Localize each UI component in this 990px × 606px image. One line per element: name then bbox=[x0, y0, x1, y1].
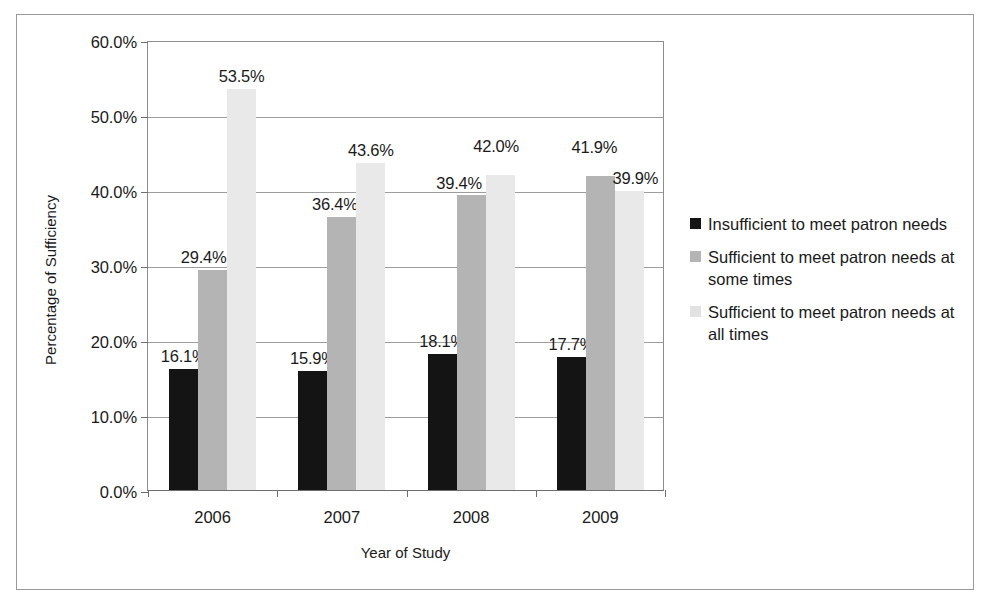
legend-swatch-light-icon bbox=[690, 306, 701, 317]
bar-2008-series-1[interactable] bbox=[457, 195, 486, 491]
bar-value-label: 39.9% bbox=[612, 169, 658, 188]
y-axis-tick bbox=[141, 42, 148, 43]
bar-2006-series-0[interactable] bbox=[169, 369, 198, 490]
y-axis-tick bbox=[141, 342, 148, 343]
bar-2009-series-2[interactable] bbox=[615, 191, 644, 490]
legend-swatch-black-icon bbox=[690, 218, 701, 229]
y-axis-tick bbox=[141, 417, 148, 418]
plot-area: 0.0%10.0%20.0%30.0%40.0%50.0%60.0%200616… bbox=[147, 41, 664, 491]
x-axis-category-label: 2009 bbox=[582, 508, 619, 527]
bar-value-label: 42.0% bbox=[473, 137, 519, 156]
bar-2007-series-2[interactable] bbox=[356, 163, 385, 490]
chart-frame: Percentage of Sufficiency Year of Study … bbox=[16, 14, 974, 590]
x-axis-category-label: 2006 bbox=[194, 508, 231, 527]
legend-item[interactable]: Insufficient to meet patron needs bbox=[690, 213, 960, 235]
x-axis-category-label: 2007 bbox=[324, 508, 361, 527]
legend-swatch-gray-icon bbox=[690, 251, 701, 262]
x-axis-tick bbox=[407, 490, 408, 497]
y-axis-tick-label: 20.0% bbox=[91, 333, 137, 352]
chart-legend: Insufficient to meet patron needsSuffici… bbox=[690, 213, 960, 356]
y-axis-tick bbox=[141, 117, 148, 118]
x-axis-title: Year of Study bbox=[147, 544, 664, 561]
bar-value-label: 39.4% bbox=[436, 174, 482, 193]
bar-2006-series-2[interactable] bbox=[227, 89, 256, 490]
y-axis-tick bbox=[141, 192, 148, 193]
bar-2007-series-0[interactable] bbox=[298, 371, 327, 490]
gridline bbox=[148, 117, 663, 118]
bar-value-label: 29.4% bbox=[181, 248, 227, 267]
legend-item-label: Sufficient to meet patron needs at all t… bbox=[708, 301, 956, 345]
bar-value-label: 53.5% bbox=[219, 67, 265, 86]
bar-value-label: 43.6% bbox=[348, 141, 394, 160]
legend-item[interactable]: Sufficient to meet patron needs at some … bbox=[690, 246, 960, 290]
y-axis-tick bbox=[141, 267, 148, 268]
bar-2008-series-2[interactable] bbox=[486, 175, 515, 490]
bar-2009-series-0[interactable] bbox=[557, 357, 586, 490]
y-axis-tick bbox=[141, 492, 148, 493]
x-axis-category-label: 2008 bbox=[453, 508, 490, 527]
y-axis-tick-label: 60.0% bbox=[91, 33, 137, 52]
y-axis-tick-label: 30.0% bbox=[91, 258, 137, 277]
legend-item-label: Insufficient to meet patron needs bbox=[708, 213, 947, 235]
legend-item[interactable]: Sufficient to meet patron needs at all t… bbox=[690, 301, 960, 345]
bar-2009-series-1[interactable] bbox=[586, 176, 615, 490]
x-axis-tick bbox=[536, 490, 537, 497]
y-axis-tick-label: 40.0% bbox=[91, 183, 137, 202]
bar-2008-series-0[interactable] bbox=[428, 354, 457, 490]
y-axis-tick-label: 0.0% bbox=[100, 483, 137, 502]
x-axis-tick bbox=[665, 490, 666, 497]
bar-2007-series-1[interactable] bbox=[327, 217, 356, 490]
y-axis-tick-label: 50.0% bbox=[91, 108, 137, 127]
bar-value-label: 36.4% bbox=[312, 195, 358, 214]
bar-2006-series-1[interactable] bbox=[198, 270, 227, 491]
bar-value-label: 41.9% bbox=[571, 138, 617, 157]
x-axis-tick bbox=[148, 490, 149, 497]
legend-item-label: Sufficient to meet patron needs at some … bbox=[708, 246, 956, 290]
y-axis-tick-label: 10.0% bbox=[91, 408, 137, 427]
x-axis-tick bbox=[277, 490, 278, 497]
y-axis-title: Percentage of Sufficiency bbox=[41, 55, 61, 505]
